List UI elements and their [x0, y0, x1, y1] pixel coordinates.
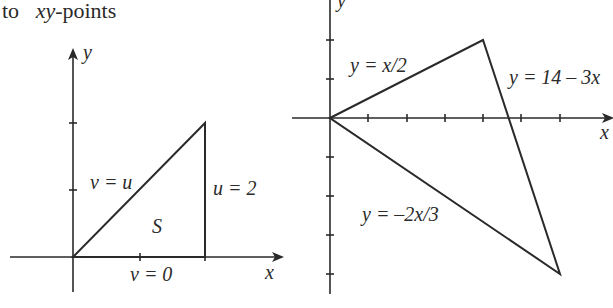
caption-prefix: to — [2, 0, 19, 23]
left-x-axis-label: x — [265, 262, 274, 282]
edge-label-v-eq-0: v = 0 — [130, 264, 172, 284]
region-label-s: S — [152, 216, 162, 236]
right-y-axis-label: y — [337, 0, 346, 10]
edge-label-y-eq-neg-2x-over-3: y = –2x/3 — [362, 204, 439, 224]
caption-suffix: -points — [55, 0, 116, 23]
right-x-axis-label: x — [600, 122, 609, 142]
right-diagram — [292, 0, 612, 294]
edge-label-u-eq-2: u = 2 — [213, 178, 257, 198]
edge-label-y-eq-x-over-2: y = x/2 — [350, 55, 407, 75]
caption-var: xy — [36, 0, 56, 23]
caption: to xy-points — [2, 0, 116, 22]
edge-label-v-eq-u: v = u — [90, 172, 132, 192]
left-y-axis-label: y — [83, 42, 92, 62]
edge-label-y-eq-14-minus-3x: y = 14 – 3x — [509, 67, 600, 87]
left-diagram — [10, 50, 282, 292]
